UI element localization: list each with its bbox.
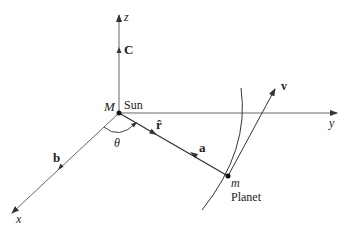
sun-point bbox=[117, 111, 122, 116]
theta-label: θ bbox=[114, 136, 120, 150]
sun-mass-label: M bbox=[103, 99, 116, 114]
c-vector-label: C bbox=[124, 42, 133, 57]
x-axis bbox=[12, 113, 119, 213]
planet-mass-label: m bbox=[231, 176, 240, 190]
theta-arc bbox=[104, 123, 136, 133]
kepler-diagram: z C y x b r̂ a θ v M Sun m Planet bbox=[0, 0, 347, 230]
r-hat-label: r̂ bbox=[156, 117, 162, 132]
planet-name-label: Planet bbox=[231, 190, 262, 204]
a-vector-label: a bbox=[199, 140, 206, 155]
x-axis-label: x bbox=[15, 212, 22, 226]
y-axis-label: y bbox=[328, 116, 335, 130]
planet-point bbox=[226, 174, 231, 179]
b-vector-label: b bbox=[53, 150, 60, 165]
c-vector-arrowhead bbox=[117, 47, 122, 53]
velocity-label: v bbox=[281, 79, 287, 93]
sun-name-label: Sun bbox=[124, 98, 143, 112]
velocity-vector bbox=[228, 89, 275, 176]
z-axis-label: z bbox=[123, 10, 129, 24]
sun-planet-line bbox=[119, 113, 228, 176]
